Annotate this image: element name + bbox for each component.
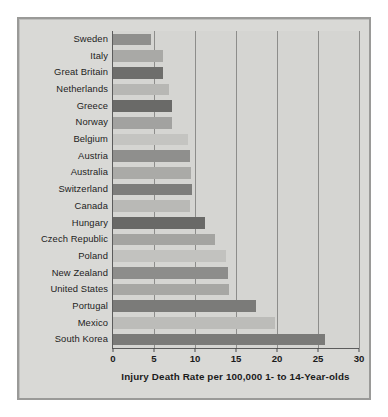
bar-series: SwedenItalyGreat BritainNetherlandsGreec…: [113, 31, 359, 348]
category-label: Portugal: [72, 299, 108, 313]
category-label: Sweden: [74, 32, 108, 46]
x-tick-label-0: 0: [110, 348, 115, 364]
bar-row: Great Britain: [113, 64, 359, 81]
bar: [113, 317, 275, 329]
category-label: Great Britain: [54, 65, 108, 79]
bar: [113, 134, 188, 146]
bar: [113, 200, 190, 212]
bar: [113, 250, 226, 262]
bar-row: Portugal: [113, 298, 359, 315]
bar: [113, 334, 325, 346]
category-label: Czech Republic: [41, 232, 108, 246]
bar-row: Poland: [113, 248, 359, 265]
bar: [113, 217, 205, 229]
gridline-30: [359, 31, 360, 348]
category-label: New Zealand: [52, 266, 108, 280]
category-label: Mexico: [78, 316, 108, 330]
category-label: Australia: [71, 165, 108, 179]
category-label: Netherlands: [56, 82, 108, 96]
x-tick-label-25: 25: [313, 348, 324, 364]
plot-area: SwedenItalyGreat BritainNetherlandsGreec…: [112, 31, 359, 349]
bar-row: Switzerland: [113, 181, 359, 198]
bar-row: Canada: [113, 198, 359, 215]
category-label: Switzerland: [58, 182, 108, 196]
category-label: South Korea: [55, 332, 108, 346]
bar: [113, 50, 163, 62]
category-label: Italy: [90, 49, 108, 63]
bar-row: Hungary: [113, 215, 359, 232]
bar: [113, 184, 192, 196]
category-label: Belgium: [73, 132, 108, 146]
bar: [113, 67, 163, 79]
chart-figure: SwedenItalyGreat BritainNetherlandsGreec…: [17, 17, 371, 400]
bar-row: Belgium: [113, 131, 359, 148]
bar-row: United States: [113, 281, 359, 298]
category-label: Norway: [76, 115, 108, 129]
bar-row: Norway: [113, 114, 359, 131]
bar: [113, 167, 191, 179]
bar-row: Italy: [113, 48, 359, 65]
category-label: Canada: [75, 199, 108, 213]
bar-row: New Zealand: [113, 265, 359, 282]
bar: [113, 117, 172, 129]
x-tick-label-15: 15: [231, 348, 242, 364]
bar: [113, 284, 229, 296]
bar-row: South Korea: [113, 331, 359, 348]
bar: [113, 300, 256, 312]
bar: [113, 267, 228, 279]
x-tick-label-10: 10: [190, 348, 201, 364]
x-axis-title: Injury Death Rate per 100,000 1- to 14-Y…: [112, 371, 359, 382]
bar-row: Austria: [113, 148, 359, 165]
category-label: United States: [50, 282, 108, 296]
bar: [113, 100, 172, 112]
bar-row: Australia: [113, 164, 359, 181]
category-label: Austria: [78, 149, 108, 163]
x-tick-label-30: 30: [354, 348, 365, 364]
bar-row: Netherlands: [113, 81, 359, 98]
bar-row: Mexico: [113, 315, 359, 332]
bar: [113, 150, 190, 162]
category-label: Greece: [77, 99, 108, 113]
x-tick-label-20: 20: [272, 348, 283, 364]
bar-row: Czech Republic: [113, 231, 359, 248]
bar: [113, 234, 215, 246]
category-label: Hungary: [72, 216, 108, 230]
bar: [113, 34, 151, 46]
x-tick-label-5: 5: [151, 348, 156, 364]
category-label: Poland: [78, 249, 108, 263]
bar-row: Sweden: [113, 31, 359, 48]
bar-row: Greece: [113, 98, 359, 115]
bar: [113, 84, 169, 96]
